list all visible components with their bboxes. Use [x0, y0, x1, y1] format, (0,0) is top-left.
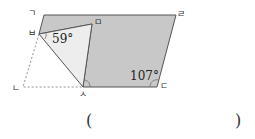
- angle-label-107: 107°: [130, 70, 159, 82]
- vertex-label-fold-bottom: ㅅ: [79, 90, 87, 99]
- vertex-label-top-left: ㄱ: [28, 9, 36, 18]
- vertex-label-bottom-left: ㄴ: [12, 84, 20, 93]
- vertex-label-folded-point: ㅁ: [94, 18, 102, 27]
- vertex-label-top-right: ㄹ: [177, 10, 185, 19]
- folded-parallelogram-figure: [0, 0, 255, 139]
- answer-close-paren: ): [235, 113, 241, 129]
- vertex-label-fold-top: ㅂ: [28, 29, 36, 38]
- angle-label-59: 59°: [52, 33, 73, 45]
- answer-open-paren: (: [86, 113, 92, 129]
- vertex-label-bottom-right: ㄷ: [160, 82, 168, 91]
